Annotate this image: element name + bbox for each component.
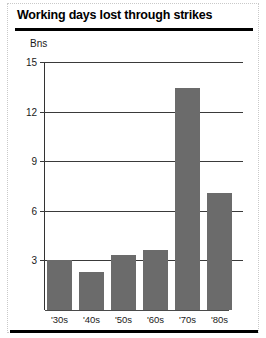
y-axis-label: 9 <box>31 156 37 167</box>
x-axis-label: '60s <box>147 314 164 325</box>
x-axis-line <box>45 310 229 311</box>
x-axis-label: '40s <box>83 314 100 325</box>
y-axis-label: 15 <box>26 57 37 68</box>
y-axis-tick <box>40 62 45 63</box>
chart-page: Working days lost through strikes Bns 15… <box>0 0 266 338</box>
bar-40s <box>79 272 104 310</box>
y-axis-tick <box>40 211 45 212</box>
y-axis-tick <box>40 112 45 113</box>
footer-rule <box>10 330 258 333</box>
x-axis-label: '50s <box>115 314 132 325</box>
y-axis-unit-label: Bns <box>30 38 47 50</box>
plot-inner: 1512963'30s'40s'50s'60s'70s'80s <box>45 62 243 310</box>
bar-30s <box>47 260 72 310</box>
y-axis-label: 3 <box>31 255 37 266</box>
bar-60s <box>143 250 168 310</box>
y-axis-tick <box>40 161 45 162</box>
y-axis-label: 12 <box>26 106 37 117</box>
bar-80s <box>207 193 232 310</box>
y-axis-label: 6 <box>31 205 37 216</box>
bar-70s <box>175 88 200 310</box>
plot-area: 1512963'30s'40s'50s'60s'70s'80s <box>44 62 243 310</box>
gridline <box>45 161 243 162</box>
gridline <box>45 112 243 113</box>
bar-50s <box>111 255 136 310</box>
title-rule <box>15 28 253 31</box>
gridline <box>45 62 243 63</box>
chart-title: Working days lost through strikes <box>17 8 245 23</box>
x-axis-label: '30s <box>51 314 68 325</box>
x-axis-label: '70s <box>179 314 196 325</box>
y-axis-tick <box>40 260 45 261</box>
x-axis-label: '80s <box>211 314 228 325</box>
